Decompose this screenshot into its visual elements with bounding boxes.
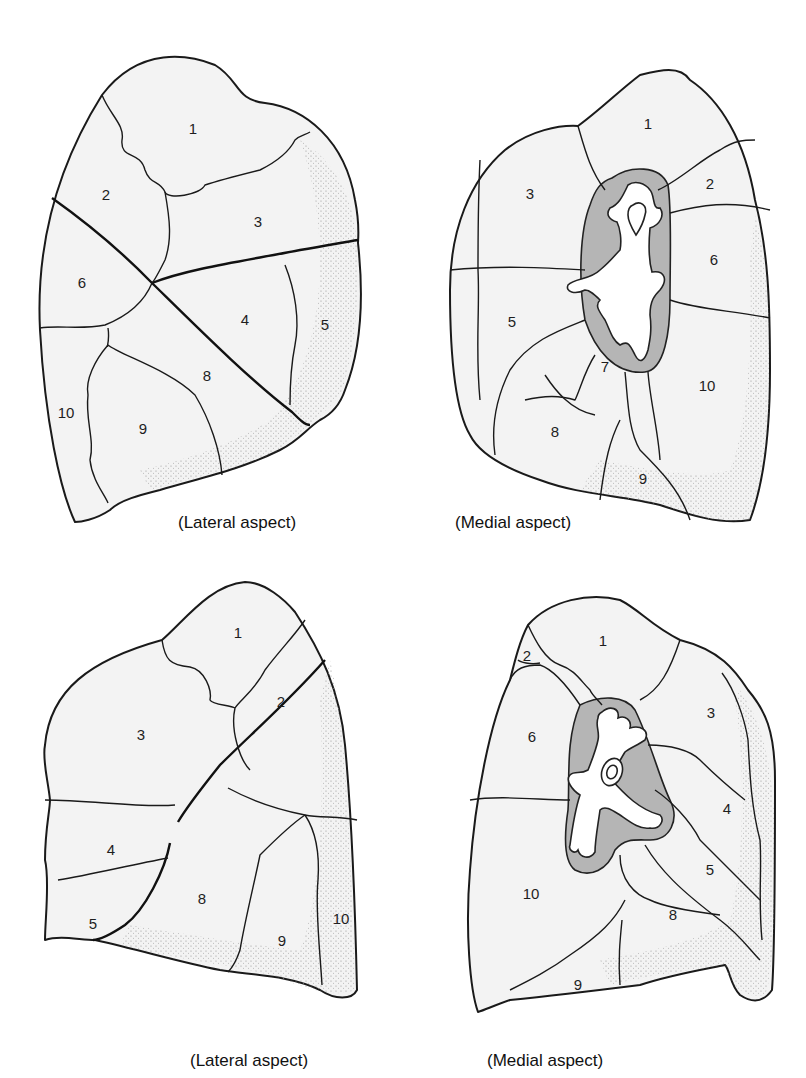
segment-label: 2 [706,175,714,192]
segment-label: 8 [198,890,206,907]
segment-label: 4 [723,800,731,817]
panel-left-medial: 1 2 3 4 5 6 8 9 10 (Medial aspect) [468,597,775,1070]
segment-label: 9 [574,976,582,993]
segment-label: 5 [321,316,329,333]
segment-label: 1 [599,632,607,649]
segment-label: 6 [78,274,86,291]
segment-label: 1 [189,120,197,137]
panel-right-lateral: 1 2 3 4 5 6 8 9 10 (Lateral aspect) [39,57,360,532]
segment-label: 9 [278,932,286,949]
segment-label: 8 [669,906,677,923]
segment-label: 6 [710,251,718,268]
panel-left-lateral: 1 2 3 4 5 8 9 10 (Lateral aspect) [44,582,357,1070]
segment-label: 6 [528,728,536,745]
segment-label: 5 [706,861,714,878]
segment-label: 10 [523,885,540,902]
segment-label: 3 [707,704,715,721]
segment-label: 2 [277,693,285,710]
segment-label: 3 [526,185,534,202]
segment-label: 10 [699,377,716,394]
segment-label: 2 [102,186,110,203]
segment-label: 9 [139,420,147,437]
lung-outline [39,57,360,522]
segment-label: 1 [234,624,242,641]
segment-label: 8 [203,367,211,384]
segment-label: 7 [601,358,609,375]
segment-label: 5 [89,915,97,932]
segment-label: 5 [508,313,516,330]
panel-caption: (Lateral aspect) [178,513,296,532]
panel-caption: (Medial aspect) [487,1051,603,1070]
segment-label: 1 [644,115,652,132]
segment-label: 9 [639,470,647,487]
segment-label: 3 [137,726,145,743]
panel-caption: (Lateral aspect) [190,1051,308,1070]
segment-label: 3 [254,213,262,230]
segment-label: 2 [523,647,531,664]
bronchopulmonary-segments-diagram: 1 2 3 4 5 6 8 9 10 (Lateral aspect) 1 2 … [0,0,806,1078]
panel-caption: (Medial aspect) [455,513,571,532]
segment-label: 8 [551,423,559,440]
segment-label: 4 [241,311,249,328]
segment-label: 4 [107,841,115,858]
segment-label: 10 [333,910,350,927]
panel-right-medial: 1 2 3 5 6 7 8 9 10 (Medial aspect) [450,70,770,532]
segment-label: 10 [58,404,75,421]
